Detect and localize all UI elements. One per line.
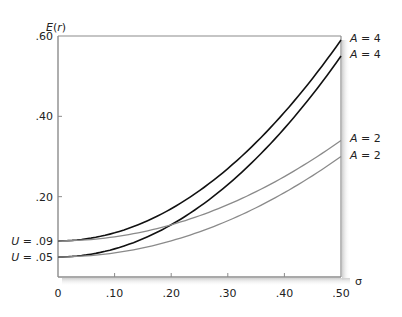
x-tick-label: .40	[276, 287, 294, 300]
frame-shadow-right	[342, 40, 350, 280]
y-tick-label: .20	[36, 191, 54, 204]
frame-shadow-bottom	[62, 278, 350, 286]
curve-A4-U05	[58, 56, 341, 257]
intercept-label: U = .09	[11, 235, 53, 248]
intercept-label: U = .05	[11, 251, 53, 264]
x-tick-label: .10	[106, 287, 124, 300]
x-tick-label: .50	[332, 287, 350, 300]
curve-label-A4: A = 4	[349, 32, 381, 45]
curve-label-A2: A = 2	[349, 149, 381, 162]
plot-frame	[58, 36, 341, 277]
curve-A4-U09	[58, 40, 341, 241]
curve-label-A4: A = 4	[349, 48, 381, 61]
intercept-labels: U = .09U = .05	[11, 235, 53, 264]
indifference-curves-chart: .20.40.60 0.10.20.30.40.50 U = .09U = .0…	[0, 0, 402, 317]
y-axis-title: E(r)	[46, 21, 66, 34]
x-axis-title: σ	[355, 275, 362, 288]
x-tick-label: .20	[162, 287, 180, 300]
x-tick-label: 0	[55, 287, 62, 300]
curve-labels: A = 4A = 4A = 2A = 2	[349, 32, 381, 161]
curve-label-A2: A = 2	[349, 132, 381, 145]
x-tick-label: .30	[219, 287, 237, 300]
y-tick-label: .40	[36, 110, 54, 123]
indifference-curves	[58, 40, 341, 257]
